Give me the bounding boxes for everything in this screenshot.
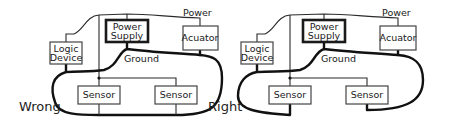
logic-device-label-2: Device xyxy=(50,52,83,63)
sensor-power-bus xyxy=(99,78,176,86)
diagram-right: Logic Device Power Supply Acuator Sensor… xyxy=(208,7,423,115)
sensor-left-label: Sensor xyxy=(83,89,116,100)
sensor-power-bus xyxy=(290,78,367,86)
sensor-right-label: Sensor xyxy=(351,89,384,100)
power-supply-label-2: Supply xyxy=(111,30,144,41)
sensor-right-label: Sensor xyxy=(160,89,193,100)
grounding-diagram: Logic Device Power Supply Acuator Sensor… xyxy=(0,0,451,127)
logic-device-label-2: Device xyxy=(241,52,274,63)
diagram-wrong: Logic Device Power Supply Acuator Sensor… xyxy=(19,7,222,115)
power-wire-label: Power xyxy=(382,7,411,18)
power-supply-label-2: Supply xyxy=(308,30,341,41)
wrong-label: Wrong xyxy=(19,99,61,114)
power-wire-label: Power xyxy=(183,7,212,18)
actuator-label: Acuator xyxy=(380,32,417,43)
right-label: Right xyxy=(208,99,242,114)
ground-wire-label: Ground xyxy=(124,53,159,64)
ground-wire-label: Ground xyxy=(321,53,356,64)
sensor-left-label: Sensor xyxy=(274,89,307,100)
actuator-label: Acuator xyxy=(182,32,219,43)
